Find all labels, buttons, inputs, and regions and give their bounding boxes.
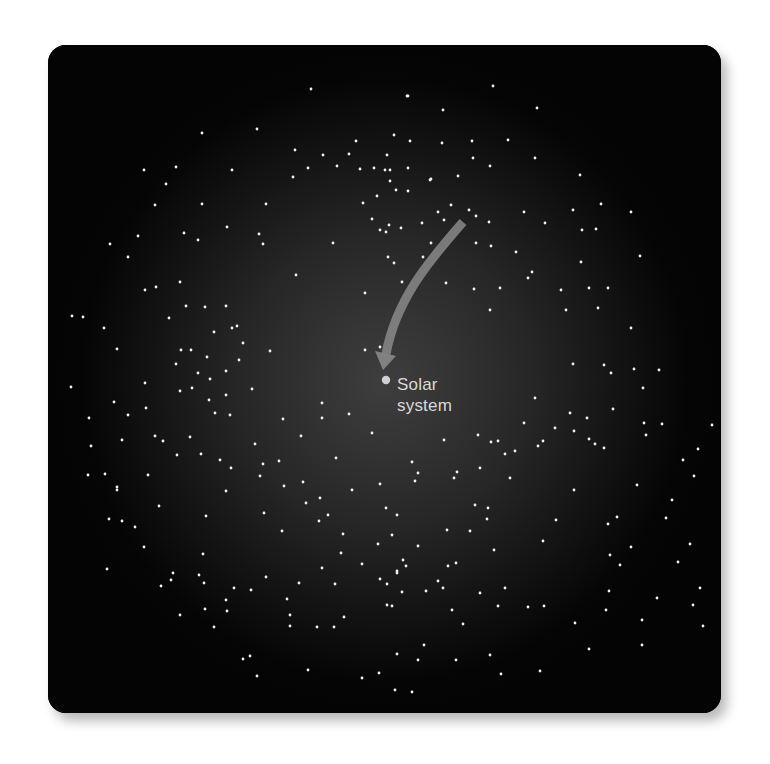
star [539,670,542,673]
star [597,307,600,310]
star [175,363,178,366]
star [258,233,261,236]
star [407,167,410,170]
star [554,427,557,430]
star [574,622,577,625]
star [405,565,408,568]
star [154,204,157,207]
star [689,543,692,546]
star [185,305,188,308]
star [201,132,204,135]
star [523,211,526,214]
star [665,517,668,520]
star [205,515,208,518]
star [231,169,234,172]
star [396,653,399,656]
star [630,546,633,549]
star [254,443,257,446]
star [87,474,90,477]
star [262,243,265,246]
star [316,626,319,629]
star [394,689,397,692]
arrow-icon [386,222,463,354]
star [249,655,252,658]
star [143,546,146,549]
star [572,363,575,366]
star [342,533,345,536]
star [616,516,619,519]
star [238,359,241,362]
star [612,408,615,411]
star [479,467,482,470]
star [289,625,292,628]
star [379,483,382,486]
star [116,486,119,489]
star [384,169,387,172]
star [386,154,389,157]
star [179,614,182,617]
star [474,504,477,507]
star [515,251,518,254]
star [429,179,432,182]
star [302,481,305,484]
star [203,582,206,585]
star [379,346,382,349]
star [643,422,646,425]
star [321,417,324,420]
star [603,364,606,367]
star [445,282,448,285]
star [165,183,168,186]
star [278,460,281,463]
star [348,413,351,416]
star [226,226,229,229]
star [453,477,456,480]
star [251,388,254,391]
star [630,327,633,330]
star [446,529,449,532]
star [542,440,545,443]
star [479,592,482,595]
star [430,242,433,245]
star [361,563,364,566]
star [283,485,286,488]
star [209,378,212,381]
star [292,176,295,179]
star [343,616,346,619]
star [391,534,394,537]
star [645,434,648,437]
star [225,599,228,602]
star [462,623,465,626]
star [289,614,292,617]
star [411,691,414,694]
star [389,180,392,183]
star [600,203,603,206]
star [121,439,124,442]
star [699,587,702,590]
star [179,281,182,284]
star [594,443,597,446]
star [373,167,376,170]
star [497,605,500,608]
star [422,256,425,259]
star [162,440,165,443]
star [421,222,424,225]
star [104,473,107,476]
star [265,576,268,579]
star [661,423,664,426]
star [332,242,335,245]
star [204,306,207,309]
star [191,387,194,390]
star [443,439,446,442]
star [355,140,358,143]
star [401,281,404,284]
star [536,107,539,110]
arrowhead-icon [375,351,396,370]
star [544,222,547,225]
star [385,231,388,234]
star [633,368,636,371]
star [229,414,232,417]
star [393,134,396,137]
star [543,605,546,608]
star [327,514,330,517]
star [113,401,116,404]
